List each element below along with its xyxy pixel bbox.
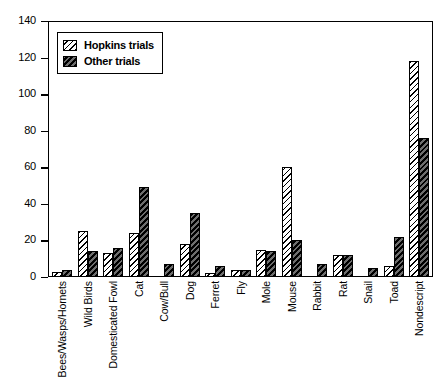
x-axis-label-slot: Cat: [129, 279, 149, 379]
y-axis-tick-label: 140: [18, 14, 36, 26]
x-axis-label-slot: Wild Birds: [78, 279, 98, 379]
bar: [78, 231, 88, 277]
x-axis-label: Cat: [133, 281, 144, 297]
x-axis-label-slot: Fly: [231, 279, 251, 379]
bar-group: [307, 264, 327, 277]
bar-group: [129, 187, 149, 277]
y-axis-tick: 40: [0, 204, 48, 205]
bar: [103, 253, 113, 277]
bar: [384, 266, 394, 277]
x-axis-label-slot: Domesticated Fowl: [103, 279, 123, 379]
y-axis-tick: 60: [0, 167, 48, 168]
bar-group: [409, 61, 429, 277]
x-axis-label: Rat: [337, 281, 348, 297]
bar: [113, 248, 123, 277]
x-axis-label-slot: Toad: [384, 279, 404, 379]
y-axis-tick-mark: [41, 131, 48, 132]
y-axis-tick-label: 0: [30, 270, 36, 282]
chart-legend: Hopkins trialsOther trials: [57, 32, 163, 74]
x-axis-label-slot: Snail: [358, 279, 378, 379]
dark-diagonal-hatch-swatch: [63, 56, 77, 67]
bar-group: [180, 213, 200, 277]
legend-entry-label: Hopkins trials: [84, 39, 154, 51]
bar-group: [78, 231, 98, 277]
x-axis-label-slot: Ferret: [205, 279, 225, 379]
bar-chart-figure: 020406080100120140 Bees/Wasps/HornetsWil…: [0, 0, 440, 379]
bar: [62, 270, 72, 277]
bar-group: [282, 167, 302, 277]
x-axis-label: Bees/Wasps/Hornets: [57, 281, 68, 377]
light-diagonal-hatch-swatch: [63, 40, 77, 51]
y-axis-tick-mark: [41, 21, 48, 22]
y-axis-tick: 80: [0, 131, 48, 132]
bar: [129, 233, 139, 277]
x-axis-label: Rabbit: [312, 281, 323, 311]
x-axis-label: Domesticated Fowl: [108, 281, 119, 369]
x-axis-label: Nondescript: [414, 281, 425, 336]
x-axis-label: Toad: [388, 281, 399, 303]
x-axis-label: Wild Birds: [82, 281, 93, 327]
y-axis-tick-label: 40: [24, 197, 36, 209]
bar: [190, 213, 200, 277]
bar: [215, 266, 225, 277]
x-axis-label-slot: Dog: [180, 279, 200, 379]
bar-group: [333, 255, 353, 277]
x-axis-label-slot: Nondescript: [409, 279, 429, 379]
bar: [256, 250, 266, 277]
x-axis-label-slot: Mouse: [282, 279, 302, 379]
bar: [266, 251, 276, 277]
legend-entry: Other trials: [63, 53, 154, 69]
bar: [241, 270, 251, 277]
x-axis-label-slot: Rat: [333, 279, 353, 379]
x-axis-label: Mole: [261, 281, 272, 303]
bar-group: [231, 270, 251, 277]
bar-group: [384, 237, 404, 277]
bar: [205, 273, 215, 277]
legend-entry-label: Other trials: [84, 55, 140, 67]
bar: [139, 187, 149, 277]
bar: [231, 270, 241, 277]
x-axis-label: Snail: [363, 281, 374, 304]
x-axis-label: Dog: [184, 281, 195, 300]
y-axis-tick: 100: [0, 94, 48, 95]
bar-group: [256, 250, 276, 277]
bar-group: [205, 266, 225, 277]
y-axis-tick: 120: [0, 58, 48, 59]
legend-entry: Hopkins trials: [63, 37, 154, 53]
y-axis-tick: 0: [0, 277, 48, 278]
bar: [88, 251, 98, 277]
bar: [164, 264, 174, 277]
bar: [368, 268, 378, 277]
y-axis-tick-label: 120: [18, 51, 36, 63]
x-axis-label-slot: Rabbit: [307, 279, 327, 379]
x-axis-category-labels: Bees/Wasps/HornetsWild BirdsDomesticated…: [48, 279, 433, 379]
y-axis-tick-label: 60: [24, 160, 36, 172]
bar: [343, 255, 353, 277]
y-axis-tick: 20: [0, 240, 48, 241]
y-axis-tick: 140: [0, 21, 48, 22]
bar: [282, 167, 292, 277]
y-axis-tick-mark: [41, 277, 48, 278]
bar: [409, 61, 419, 277]
bar: [292, 240, 302, 277]
bar-group: [358, 268, 378, 277]
bar: [317, 264, 327, 277]
y-axis-tick-mark: [41, 94, 48, 95]
x-axis-label: Fly: [235, 281, 246, 295]
bar: [52, 272, 62, 277]
bar-group: [52, 270, 72, 277]
bar: [333, 255, 343, 277]
x-axis-label-slot: Cow/Bull: [154, 279, 174, 379]
y-axis-tick-mark: [41, 240, 48, 241]
x-axis-label-slot: Bees/Wasps/Hornets: [52, 279, 72, 379]
bar: [419, 138, 429, 277]
x-axis-label: Cow/Bull: [159, 281, 170, 322]
x-axis-label-slot: Mole: [256, 279, 276, 379]
y-axis-tick-label: 100: [18, 87, 36, 99]
bar-group: [103, 248, 123, 277]
x-axis-label: Mouse: [286, 281, 297, 312]
y-axis-tick-mark: [41, 167, 48, 168]
y-axis-tick-label: 80: [24, 124, 36, 136]
y-axis-tick-mark: [41, 204, 48, 205]
bar-group: [154, 264, 174, 277]
